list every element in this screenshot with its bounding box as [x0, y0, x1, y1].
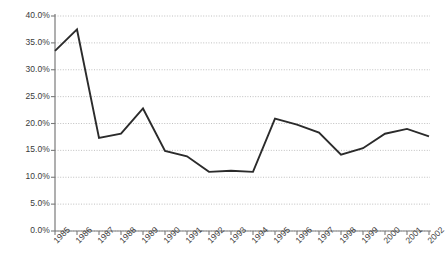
- x-axis-label: 1991: [184, 225, 204, 245]
- x-axis-label: 1999: [360, 225, 380, 245]
- x-axis-label: 2001: [404, 225, 424, 245]
- x-axis-label: 1997: [316, 225, 336, 245]
- line-chart: 0.0%5.0%10.0%15.0%20.0%25.0%30.0%35.0%40…: [0, 0, 447, 270]
- x-axis-label: 1998: [338, 225, 358, 245]
- x-axis-label: 1990: [162, 225, 182, 245]
- x-axis-label: 1988: [118, 225, 138, 245]
- x-axis-label: 1993: [228, 225, 248, 245]
- x-axis-label: 1987: [96, 225, 116, 245]
- x-axis-label: 1995: [272, 225, 292, 245]
- x-axis-label: 1985: [52, 225, 72, 245]
- x-axis-label: 1989: [140, 225, 160, 245]
- x-axis-label: 1996: [294, 225, 314, 245]
- x-axis-label: 1986: [74, 225, 94, 245]
- x-axis-label: 1992: [206, 225, 226, 245]
- x-axis-tick-labels: 1985198619871988198919901991199219931994…: [0, 0, 447, 270]
- x-axis-label: 2000: [382, 225, 402, 245]
- x-axis-label: 2002: [426, 225, 446, 245]
- x-axis-label: 1994: [250, 225, 270, 245]
